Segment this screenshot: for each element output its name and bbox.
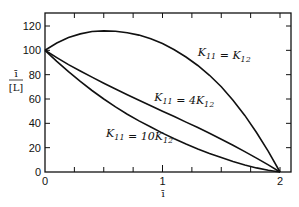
y-tick-label: 40 — [29, 117, 41, 129]
x-tick-label: 0 — [42, 175, 48, 187]
y-tick-label: 20 — [29, 142, 41, 154]
y-axis-label-numerator: ī — [13, 68, 17, 79]
plot-frame — [45, 13, 291, 172]
y-tick-label: 100 — [23, 44, 41, 56]
curve-annotation-1: K11 = 4K12 — [153, 91, 214, 109]
y-tick-label: 0 — [35, 166, 41, 178]
series-line-1 — [45, 50, 280, 172]
y-tick-label: 80 — [29, 69, 41, 81]
x-tick-label: 1 — [159, 175, 165, 187]
y-tick-label: 60 — [29, 93, 41, 105]
y-axis-label: ī [L] — [9, 68, 24, 93]
x-tick-label: 2 — [277, 175, 283, 187]
x-axis-label: ī — [160, 188, 164, 199]
curve-annotation-2: K11 = 10K12 — [105, 127, 173, 145]
curve-annotation-0: K11 = K12 — [197, 46, 251, 64]
y-tick-label: 120 — [23, 20, 41, 32]
chart: 020406080100120 012 K11 = K12K11 = 4K12K… — [0, 0, 299, 207]
y-axis-label-denominator: [L] — [9, 82, 24, 93]
